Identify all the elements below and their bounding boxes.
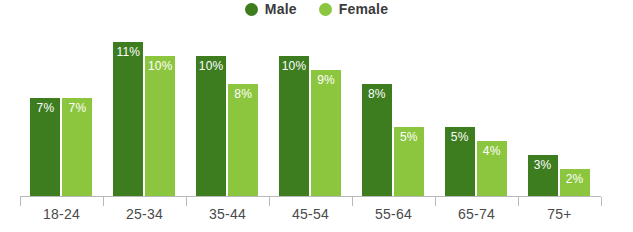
x-axis-tick — [20, 197, 21, 206]
x-axis-label-55-64: 55-64 — [352, 203, 435, 225]
bar-group-25-34: 11%10% — [103, 28, 186, 197]
x-axis-tick — [186, 197, 187, 206]
bar-value-label: 10% — [196, 60, 226, 72]
legend-item-male: Male — [245, 2, 297, 16]
bar-value-label: 7% — [30, 102, 60, 114]
bar-female-55-64[interactable]: 5% — [394, 127, 424, 197]
bar-female-65-74[interactable]: 4% — [477, 141, 507, 197]
x-axis-tick — [352, 197, 353, 206]
bar-value-label: 8% — [228, 88, 258, 100]
bar-male-18-24[interactable]: 7% — [30, 98, 60, 197]
bar-group-45-54: 10%9% — [269, 28, 352, 197]
bar-female-45-54[interactable]: 9% — [311, 70, 341, 197]
legend-label-male: Male — [265, 2, 297, 16]
bar-group-55-64: 8%5% — [351, 28, 434, 197]
bar-groups: 7%7%11%10%10%8%10%9%8%5%5%4%3%2% — [20, 28, 600, 197]
x-axis-label-18-24: 18-24 — [20, 203, 103, 225]
chart-legend: Male Female — [0, 2, 633, 16]
circle-icon-female — [319, 3, 332, 16]
bar-male-75plus[interactable]: 3% — [528, 155, 558, 197]
bar-group-18-24: 7%7% — [20, 28, 103, 197]
x-axis-tick — [103, 197, 104, 206]
bar-female-18-24[interactable]: 7% — [62, 98, 92, 197]
bar-female-35-44[interactable]: 8% — [228, 84, 258, 197]
bar-value-label: 7% — [62, 102, 92, 114]
bar-male-65-74[interactable]: 5% — [445, 127, 475, 197]
bar-female-75plus[interactable]: 2% — [560, 169, 590, 197]
bar-group-75plus: 3%2% — [517, 28, 600, 197]
x-axis-label-25-34: 25-34 — [103, 203, 186, 225]
bar-value-label: 10% — [145, 60, 175, 72]
circle-icon-male — [245, 3, 258, 16]
bar-female-25-34[interactable]: 10% — [145, 56, 175, 197]
x-axis-tick — [601, 197, 602, 206]
bar-value-label: 11% — [113, 46, 143, 58]
bar-male-25-34[interactable]: 11% — [113, 42, 143, 197]
x-axis-label-35-44: 35-44 — [186, 203, 269, 225]
plot-area: 7%7%11%10%10%8%10%9%8%5%5%4%3%2% — [20, 28, 600, 197]
bar-value-label: 2% — [560, 173, 590, 185]
x-axis-line — [20, 196, 601, 197]
bar-male-55-64[interactable]: 8% — [362, 84, 392, 197]
bar-male-45-54[interactable]: 10% — [279, 56, 309, 197]
x-axis-tick — [435, 197, 436, 206]
bar-value-label: 4% — [477, 145, 507, 157]
x-axis-tick — [518, 197, 519, 206]
bar-value-label: 9% — [311, 74, 341, 86]
bar-chart: Male Female 7%7%11%10%10%8%10%9%8%5%5%4%… — [0, 0, 633, 232]
x-axis-label-65-74: 65-74 — [435, 203, 518, 225]
bar-value-label: 5% — [394, 131, 424, 143]
bar-male-35-44[interactable]: 10% — [196, 56, 226, 197]
bar-value-label: 3% — [528, 159, 558, 171]
bar-group-35-44: 10%8% — [186, 28, 269, 197]
x-axis-label-45-54: 45-54 — [269, 203, 352, 225]
legend-item-female: Female — [319, 2, 388, 16]
bar-value-label: 10% — [279, 60, 309, 72]
bar-group-65-74: 5%4% — [434, 28, 517, 197]
x-axis-labels: 18-2425-3435-4445-5455-6465-7475+ — [20, 203, 601, 225]
bar-value-label: 8% — [362, 88, 392, 100]
bar-value-label: 5% — [445, 131, 475, 143]
x-axis-tick — [269, 197, 270, 206]
legend-label-female: Female — [339, 2, 388, 16]
x-axis-label-75plus: 75+ — [518, 203, 601, 225]
